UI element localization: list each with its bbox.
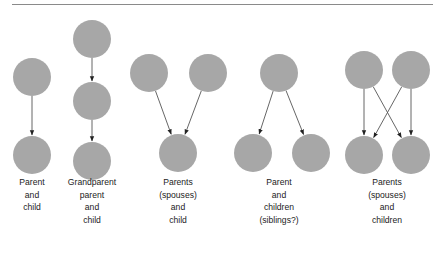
person-node [234, 134, 272, 172]
label-parents-spouses-child: Parents (spouses) and child [133, 176, 223, 226]
label-line: (spouses) [133, 189, 223, 202]
label-line: Parent [234, 176, 324, 189]
label-line: and [133, 201, 223, 214]
person-node [292, 134, 330, 172]
label-line: and [47, 201, 137, 214]
label-line: parent [47, 189, 137, 202]
person-node [345, 51, 383, 89]
person-node [73, 20, 111, 58]
person-node [130, 54, 168, 92]
edge-arrow [155, 91, 171, 134]
label-line: Parents [133, 176, 223, 189]
person-node [73, 142, 111, 180]
person-node [260, 54, 298, 92]
label-line: and [342, 201, 432, 214]
label-parent-children-siblings: Parent and children (siblings?) [234, 176, 324, 226]
label-line: child [47, 214, 137, 227]
person-node [392, 136, 430, 174]
person-node [392, 51, 430, 89]
label-line: child [133, 214, 223, 227]
label-line: (siblings?) [234, 214, 324, 227]
label-line: Grandparent [47, 176, 137, 189]
label-grandparent-parent-child: Grandparent parent and child [47, 176, 137, 226]
label-line: (spouses) [342, 189, 432, 202]
label-parents-spouses-children: Parents (spouses) and children [342, 176, 432, 226]
edge-arrow [286, 91, 304, 135]
edge-arrow [185, 91, 201, 134]
person-node [345, 136, 383, 174]
label-line: children [234, 201, 324, 214]
label-line: Parents [342, 176, 432, 189]
person-node [189, 54, 227, 92]
person-node [13, 136, 51, 174]
label-line: and [234, 189, 324, 202]
label-line: children [342, 214, 432, 227]
edge-arrow [259, 91, 273, 134]
person-node [13, 58, 51, 96]
person-node [73, 82, 111, 120]
person-node [159, 134, 197, 172]
